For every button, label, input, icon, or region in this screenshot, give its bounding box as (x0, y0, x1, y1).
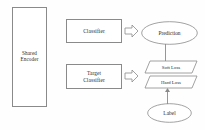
node-shared-encoder-label: Shared Encoder (21, 51, 39, 63)
block-arrow-right-icon (124, 69, 139, 83)
node-hard-loss-label: Hard Loss (144, 75, 198, 89)
node-label-text: Label (147, 103, 192, 123)
node-target-classifier[interactable]: Target Classifier (66, 64, 122, 89)
node-classifier[interactable]: Classifier (66, 19, 122, 43)
node-label[interactable]: Label (147, 103, 192, 123)
node-soft-loss[interactable]: Soft Loss (144, 60, 198, 74)
node-prediction[interactable]: Prediction (141, 21, 198, 45)
connector-label-to-hard-loss (164, 88, 171, 104)
node-hard-loss[interactable]: Hard Loss (144, 75, 198, 89)
node-prediction-label: Prediction (141, 21, 198, 45)
connector-prediction-to-soft-loss (164, 44, 167, 61)
node-soft-loss-label: Soft Loss (144, 60, 198, 74)
block-arrow-right-icon (124, 24, 139, 38)
node-classifier-label: Classifier (83, 28, 105, 34)
node-target-classifier-label: Target Classifier (83, 70, 105, 82)
node-shared-encoder[interactable]: Shared Encoder (12, 7, 47, 107)
diagram-canvas: Shared Encoder Classifier Target Classif… (0, 0, 205, 130)
